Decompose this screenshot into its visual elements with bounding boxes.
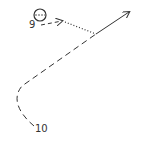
play-diagram: 9 10: [0, 0, 152, 152]
dashed-arrow-from-9: [41, 21, 62, 25]
dashed-route-from-10: [17, 34, 96, 126]
dotted-connector: [65, 22, 96, 34]
player-marker-icon: [34, 9, 46, 21]
route-diagram-svg: [0, 0, 152, 152]
solid-route-arrow: [96, 12, 129, 34]
player-10-label: 10: [35, 124, 48, 134]
player-9-label: 9: [29, 20, 35, 30]
